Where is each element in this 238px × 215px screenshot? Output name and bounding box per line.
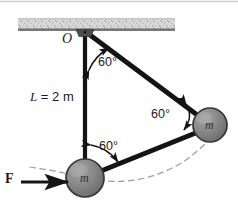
angle-bottom-label: 60° bbox=[99, 140, 118, 153]
diagram-canvas bbox=[0, 0, 238, 215]
rod-length-label: L = 2 m bbox=[30, 90, 74, 103]
mass-right-label: m bbox=[205, 119, 214, 131]
force-label-F: F bbox=[5, 172, 14, 186]
hatched-ceiling bbox=[18, 18, 175, 31]
length-value: 2 m bbox=[52, 89, 74, 104]
swing-path-arc bbox=[30, 133, 214, 181]
angle-right-label: 60° bbox=[151, 108, 170, 121]
pivot-bracket bbox=[76, 30, 94, 37]
mass-bottom-label: m bbox=[80, 172, 89, 184]
pivot-label-O: O bbox=[62, 32, 72, 46]
length-equals: = bbox=[37, 89, 52, 104]
angle-top-label: 60° bbox=[98, 56, 117, 69]
physics-diagram-pendulum: O L = 2 m 60° 60° 60° F m m bbox=[0, 0, 238, 215]
rod-diagonal-upper bbox=[86, 32, 208, 123]
